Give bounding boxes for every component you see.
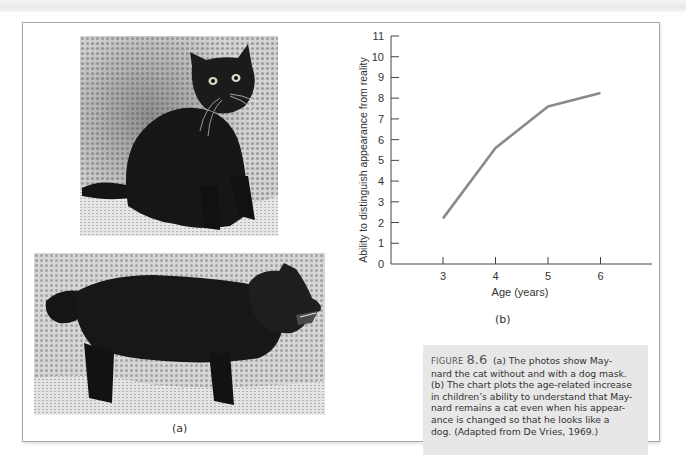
x-axis-label: Age (years) bbox=[492, 286, 549, 298]
caption-line-7: dog. (Adapted from De Vries, 1969.) bbox=[431, 426, 640, 438]
caption-line-4: in children’s ability to understand that… bbox=[431, 391, 640, 403]
figure-caption: FIGURE 8.6 (a) The photos show May- nard… bbox=[423, 345, 648, 455]
y-tick-label: 8 bbox=[378, 92, 384, 104]
x-tick-label: 4 bbox=[492, 270, 498, 282]
caption-text: (a) The photos show May- bbox=[493, 355, 612, 366]
x-tick-label: 3 bbox=[440, 270, 446, 282]
caption-line-1: FIGURE 8.6 (a) The photos show May- bbox=[431, 354, 640, 368]
photo-cat-without-mask bbox=[80, 36, 278, 236]
y-tick-label: 2 bbox=[378, 217, 384, 229]
panel-b-label: (b) bbox=[495, 313, 511, 326]
line-chart: 012345678910113456Age (years)Ability to … bbox=[340, 25, 670, 315]
y-tick-label: 3 bbox=[378, 196, 384, 208]
y-tick-label: 0 bbox=[378, 258, 384, 270]
y-tick-label: 7 bbox=[378, 113, 384, 125]
chart-canvas: 012345678910113456Age (years)Ability to … bbox=[340, 25, 670, 315]
caption-line-2: nard the cat without and with a dog mask… bbox=[431, 368, 640, 380]
y-tick-label: 10 bbox=[372, 51, 384, 63]
data-line bbox=[443, 93, 601, 218]
y-tick-label: 4 bbox=[378, 175, 384, 187]
x-tick-label: 5 bbox=[545, 270, 551, 282]
y-tick-label: 1 bbox=[378, 237, 384, 249]
figure-number: 8.6 bbox=[467, 352, 488, 367]
caption-line-3: (b) The chart plots the age-related incr… bbox=[431, 379, 640, 391]
caption-line-5: nard remains a cat even when his appear- bbox=[431, 402, 640, 414]
y-tick-label: 9 bbox=[378, 71, 384, 83]
panel-a-label: (a) bbox=[172, 422, 187, 435]
photo-cat-with-dog-mask bbox=[34, 253, 325, 415]
y-tick-label: 11 bbox=[373, 30, 384, 42]
y-tick-label: 5 bbox=[378, 154, 384, 166]
figure-label: FIGURE bbox=[431, 356, 464, 366]
y-axis-label: Ability to distinguish appearance from r… bbox=[357, 57, 369, 263]
page-top-band bbox=[0, 0, 686, 12]
y-tick-label: 6 bbox=[378, 134, 384, 146]
caption-line-6: ance is changed so that he looks like a bbox=[431, 414, 640, 426]
x-tick-label: 6 bbox=[597, 270, 603, 282]
